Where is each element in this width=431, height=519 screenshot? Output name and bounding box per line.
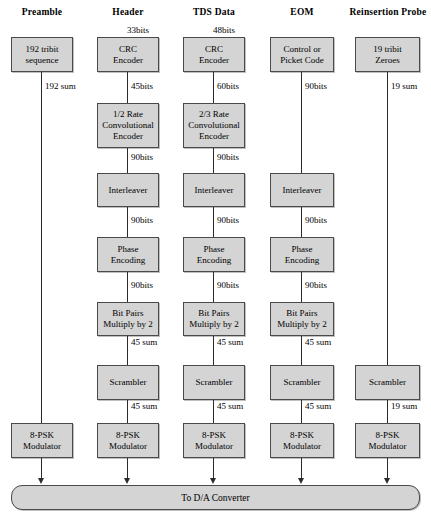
node-eom-source[interactable]: Control or Picket Code <box>270 37 334 72</box>
edge-label-eom-scrambler-out: 45 sum <box>305 401 331 411</box>
edge-reinsertion-scrambler-to-modulator <box>387 400 388 423</box>
column-title-eom-line1: EOM <box>290 7 313 17</box>
edge-label-eom-interleaver-out-text: 90bits <box>305 215 327 225</box>
node-eom-modulator-line2: Modulator <box>283 441 321 452</box>
node-eom-bit-pairs-line2: Multiply by 2 <box>277 319 327 330</box>
node-header-convolutional-encoder[interactable]: 1/2 Rate Convolutional Encoder <box>97 103 159 148</box>
node-header-modulator-line1: 8-PSK <box>116 430 140 441</box>
node-header-bit-pairs-line1: Bit Pairs <box>112 308 143 319</box>
edge-header-phase-to-bitpairs <box>127 272 128 302</box>
node-tds-convolutional-encoder[interactable]: 2/3 Rate Convolutional Encoder <box>183 103 245 148</box>
node-header-modulator-line2: Modulator <box>109 441 147 452</box>
node-header-scrambler-line1: Scrambler <box>110 377 147 388</box>
edge-label-header-bitpairs-out: 45 sum <box>131 337 157 347</box>
node-eom-phase-encoding-line2: Encoding <box>285 255 320 266</box>
edge-header-crc-to-conv <box>127 72 128 103</box>
edge-label-tds-scrambler-out: 45 sum <box>217 401 243 411</box>
node-header-phase-encoding-line1: Phase <box>118 244 139 255</box>
node-eom-interleaver[interactable]: Interleaver <box>270 173 334 207</box>
edge-preamble-source-to-modulator <box>41 72 42 423</box>
edge-label-header-bitpairs-out-text: 45 sum <box>131 337 157 347</box>
edge-reinsertion-modulator-to-sink <box>387 458 388 480</box>
edge-label-reinsertion-scrambler-out: 19 sum <box>391 401 417 411</box>
node-reinsertion-scrambler[interactable]: Scrambler <box>355 365 420 400</box>
edge-label-tds-phase-out-text: 90bits <box>217 280 239 290</box>
edge-label-reinsertion-source-out-text: 19 sum <box>391 81 417 91</box>
sink-da-converter[interactable]: To D/A Converter <box>11 485 420 510</box>
arrowhead-header-to-sink <box>124 478 130 484</box>
node-eom-source-line1: Control or <box>283 44 320 55</box>
edge-tds-conv-to-interleaver <box>213 148 214 173</box>
column-title-reinsertion-probe-line2: Probe <box>401 7 426 17</box>
node-preamble-source-line2: sequence <box>26 55 59 66</box>
column-title-preamble: Preamble <box>2 6 82 18</box>
node-tds-convolutional-encoder-line2: Convolutional <box>188 120 240 131</box>
node-eom-scrambler[interactable]: Scrambler <box>270 365 334 400</box>
node-tds-modulator[interactable]: 8-PSK Modulator <box>183 423 245 458</box>
edge-label-tds-interleaver-out: 90bits <box>217 215 239 225</box>
column-title-tds-data: TDS Data <box>174 6 254 18</box>
edge-label-header-scrambler-out: 45 sum <box>131 401 157 411</box>
signal-processing-flow-diagram: Preamble Header TDS Data EOM Reinsertion… <box>0 0 431 519</box>
edge-label-eom-interleaver-out: 90bits <box>305 215 327 225</box>
edge-label-header-scrambler-out-text: 45 sum <box>131 401 157 411</box>
edge-label-header-phase-out: 90bits <box>131 280 153 290</box>
node-header-scrambler[interactable]: Scrambler <box>97 365 159 400</box>
edge-label-header-crc-out-text: 45bits <box>131 81 153 91</box>
node-tds-interleaver[interactable]: Interleaver <box>183 173 245 207</box>
edge-label-tds-interleaver-out-text: 90bits <box>217 215 239 225</box>
node-header-bit-pairs[interactable]: Bit Pairs Multiply by 2 <box>97 302 159 336</box>
node-reinsertion-modulator[interactable]: 8-PSK Modulator <box>355 423 420 458</box>
node-header-interleaver[interactable]: Interleaver <box>97 173 159 207</box>
node-tds-convolutional-encoder-line1: 2/3 Rate <box>199 109 229 120</box>
node-preamble-modulator[interactable]: 8-PSK Modulator <box>11 423 73 458</box>
edge-header-modulator-to-sink <box>127 458 128 480</box>
node-eom-phase-encoding[interactable]: Phase Encoding <box>270 237 334 272</box>
edge-label-eom-bitpairs-out: 45 sum <box>305 337 331 347</box>
edge-label-header-interleaver-out-text: 90bits <box>131 215 153 225</box>
node-header-modulator[interactable]: 8-PSK Modulator <box>97 423 159 458</box>
edge-label-eom-source-out: 90bits <box>305 81 327 91</box>
node-reinsertion-source-line1: 19 tribit <box>373 44 402 55</box>
edge-label-eom-bitpairs-out-text: 45 sum <box>305 337 331 347</box>
node-tds-phase-encoding-line2: Encoding <box>197 255 232 266</box>
node-tds-modulator-line1: 8-PSK <box>202 430 226 441</box>
node-tds-crc-encoder[interactable]: CRC Encoder <box>183 37 245 72</box>
node-tds-scrambler[interactable]: Scrambler <box>183 365 245 400</box>
node-preamble-modulator-line2: Modulator <box>23 441 61 452</box>
edge-reinsertion-source-to-scrambler <box>387 72 388 365</box>
node-header-interleaver-line1: Interleaver <box>109 185 148 196</box>
edge-label-header-phase-out-text: 90bits <box>131 280 153 290</box>
edge-label-tds-crc-out: 60bits <box>217 81 239 91</box>
node-header-convolutional-encoder-line2: Convolutional <box>102 120 154 131</box>
edge-label-tds-in-text: 48bits <box>213 25 235 35</box>
node-reinsertion-modulator-line1: 8-PSK <box>375 430 399 441</box>
edge-label-reinsertion-scrambler-out-text: 19 sum <box>391 401 417 411</box>
node-header-crc-encoder-line2: Encoder <box>113 55 143 66</box>
node-preamble-source[interactable]: 192 tribit sequence <box>11 37 73 72</box>
node-tds-bit-pairs[interactable]: Bit Pairs Multiply by 2 <box>183 302 245 336</box>
node-tds-phase-encoding[interactable]: Phase Encoding <box>183 237 245 272</box>
column-title-reinsertion-probe: Reinsertion Probe <box>348 6 428 18</box>
node-eom-bit-pairs[interactable]: Bit Pairs Multiply by 2 <box>270 302 334 336</box>
edge-label-eom-phase-out: 90bits <box>305 280 327 290</box>
arrowhead-tds-to-sink <box>210 478 216 484</box>
sink-da-converter-label: To D/A Converter <box>181 493 249 503</box>
edge-header-conv-to-interleaver <box>127 148 128 173</box>
node-eom-source-line2: Picket Code <box>280 55 324 66</box>
node-tds-bit-pairs-line1: Bit Pairs <box>198 308 229 319</box>
node-reinsertion-source[interactable]: 19 tribit Zeroes <box>355 37 420 72</box>
edge-label-eom-source-out-text: 90bits <box>305 81 327 91</box>
node-tds-convolutional-encoder-line3: Encoder <box>199 131 229 142</box>
edge-label-tds-scrambler-out-text: 45 sum <box>217 401 243 411</box>
column-title-eom: EOM <box>262 6 342 18</box>
node-reinsertion-scrambler-line1: Scrambler <box>369 377 406 388</box>
node-tds-interleaver-line1: Interleaver <box>195 185 234 196</box>
node-eom-modulator[interactable]: 8-PSK Modulator <box>270 423 334 458</box>
edge-tds-bitpairs-to-scrambler <box>213 336 214 365</box>
edge-label-header-in: 33bits <box>127 25 149 35</box>
edge-eom-scrambler-to-modulator <box>301 400 302 423</box>
node-header-phase-encoding[interactable]: Phase Encoding <box>97 237 159 272</box>
edge-header-scrambler-to-modulator <box>127 400 128 423</box>
node-header-crc-encoder[interactable]: CRC Encoder <box>97 37 159 72</box>
